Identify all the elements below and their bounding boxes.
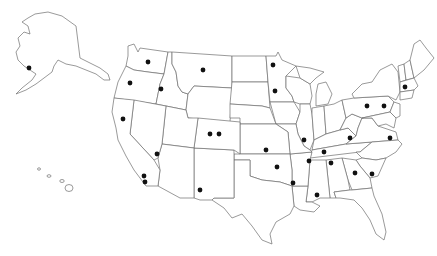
us-map (0, 0, 437, 256)
location-marker (142, 174, 147, 179)
state-colorado (194, 118, 240, 154)
state-north-dakota (232, 56, 268, 82)
location-marker (208, 132, 213, 137)
state-new-york (352, 64, 400, 100)
state-alaska (16, 12, 110, 94)
state-florida (334, 188, 386, 240)
state-hawaii-big-island (65, 185, 73, 192)
location-marker (329, 161, 334, 166)
location-marker (121, 117, 126, 122)
location-marker (275, 165, 280, 170)
location-marker (348, 136, 353, 141)
state-hawaii-maui (60, 180, 64, 183)
location-marker (198, 188, 203, 193)
state-wyoming (186, 86, 232, 122)
location-marker (217, 132, 222, 137)
location-marker (302, 138, 307, 143)
state-arizona (158, 144, 194, 198)
state-hawaii-oahu (47, 175, 51, 178)
location-marker (291, 181, 296, 186)
location-marker (201, 68, 206, 73)
location-marker (146, 60, 151, 65)
location-marker (388, 136, 393, 141)
location-marker (264, 148, 269, 153)
location-marker (403, 85, 408, 90)
location-marker (273, 89, 278, 94)
location-marker (370, 172, 375, 177)
state-hawaii-kauai (38, 168, 41, 170)
location-marker (307, 159, 312, 164)
location-marker (271, 63, 276, 68)
location-marker (353, 171, 358, 176)
state-maine (410, 40, 434, 78)
location-marker (143, 180, 148, 185)
us-map-svg (0, 0, 437, 256)
location-marker (322, 150, 327, 155)
location-marker (159, 87, 164, 92)
location-marker (315, 193, 320, 198)
location-marker (382, 104, 387, 109)
location-marker (27, 66, 32, 71)
location-marker (155, 152, 160, 157)
state-outlines (16, 12, 434, 244)
state-connecticut (400, 90, 414, 100)
location-marker (365, 104, 370, 109)
location-marker (128, 81, 133, 86)
